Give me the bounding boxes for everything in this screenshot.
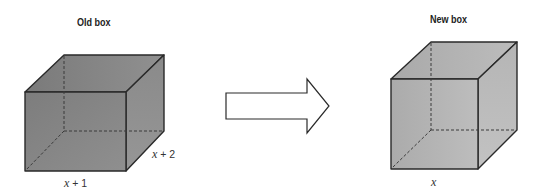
old-box-width-label: x + 1 <box>64 176 87 191</box>
width-offset: + 1 <box>69 177 87 189</box>
right-arrow-icon <box>226 79 329 133</box>
new-box <box>391 42 517 169</box>
old-box <box>25 55 164 171</box>
new-box-front-face <box>391 79 478 169</box>
depth-offset: + 2 <box>157 148 175 160</box>
width-variable: x <box>431 175 436 189</box>
old-box-title: Old box <box>77 16 111 28</box>
new-box-title: New box <box>430 13 467 25</box>
new-box-width-label: x <box>431 175 436 190</box>
old-box-depth-label: x + 2 <box>152 147 175 162</box>
diagram-canvas <box>0 0 544 194</box>
